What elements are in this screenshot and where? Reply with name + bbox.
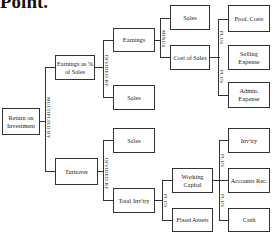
operator-plus: PLUS bbox=[219, 69, 224, 84]
connector bbox=[103, 97, 113, 98]
connector bbox=[103, 140, 113, 141]
connector bbox=[95, 67, 103, 68]
connector bbox=[219, 180, 228, 181]
connector bbox=[45, 171, 55, 172]
box-working-capital: Working Capital bbox=[172, 168, 213, 193]
box-earnings: Earnings bbox=[113, 28, 155, 52]
operator-plus: PLUS bbox=[163, 193, 168, 208]
connector bbox=[45, 67, 55, 68]
box-total-invtry: Total Inv'try bbox=[113, 188, 155, 213]
connector bbox=[218, 95, 228, 96]
box-cost-of-sales: Cost of Sales bbox=[170, 45, 210, 70]
box-cash: Cash bbox=[228, 208, 270, 232]
connector bbox=[160, 18, 170, 19]
box-sales: Sales bbox=[113, 128, 155, 153]
box-invtry: Inv'try bbox=[228, 128, 270, 153]
box-turnover: Turnover bbox=[55, 158, 98, 185]
connector bbox=[219, 220, 228, 221]
operator-plus: PLUS bbox=[220, 153, 225, 168]
connector bbox=[103, 40, 113, 41]
page-title-fragment: Point. bbox=[0, 0, 48, 13]
box-selling-expense: Selling Expense bbox=[228, 45, 270, 70]
box-sales: Sales bbox=[113, 85, 155, 110]
connector bbox=[155, 200, 162, 201]
connector bbox=[219, 140, 228, 141]
operator-divided-by: DIVIDED BY bbox=[104, 157, 109, 191]
connector bbox=[160, 57, 170, 58]
box-accounts-rec: Accounts Rec. bbox=[228, 168, 270, 193]
box-admin-expense: Admin. Expense bbox=[228, 82, 270, 108]
operator-divided-by: DIVIDED BY bbox=[104, 54, 109, 88]
connector bbox=[218, 19, 228, 20]
box-return-on-investment: Return on Investment bbox=[2, 108, 40, 135]
operator-plus: PLUS bbox=[220, 193, 225, 208]
box-earnings-pct-sales: Earnings as % of Sales bbox=[55, 55, 95, 80]
box-fixed-assets: Fixed Assets bbox=[172, 208, 213, 232]
operator-minus: MINUS bbox=[161, 29, 166, 49]
box-prod-costs: Prod. Costs bbox=[228, 5, 270, 32]
connector bbox=[103, 200, 113, 201]
connector bbox=[162, 180, 172, 181]
operator-plus: PLUS bbox=[219, 30, 224, 45]
operator-multiplied-by: MULTIPLIED BY bbox=[46, 96, 51, 140]
box-sales: Sales bbox=[170, 5, 210, 30]
connector bbox=[162, 220, 172, 221]
